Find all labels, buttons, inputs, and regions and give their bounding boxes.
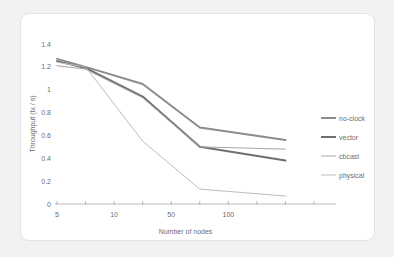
series-line-cbcast <box>57 66 285 149</box>
series-lines <box>57 59 285 196</box>
legend-label-cbcast: cbcast <box>339 153 359 160</box>
line-chart: 00.20.40.60.811.21.4 51050100 Number of … <box>21 14 376 242</box>
y-axis-tick-labels: 00.20.40.60.811.21.4 <box>41 41 51 208</box>
x-axis-tick-label: 50 <box>167 211 175 218</box>
figure-card: 00.20.40.60.811.21.4 51050100 Number of … <box>20 13 375 241</box>
x-axis-tick-labels: 51050100 <box>55 211 234 218</box>
y-axis-title: Throughput (tx / s) <box>29 95 37 152</box>
legend-label-vector: vector <box>339 134 359 141</box>
page-root: 00.20.40.60.811.21.4 51050100 Number of … <box>0 0 394 257</box>
legend-label-no-clock: no-clock <box>339 115 366 122</box>
x-axis-title: Number of nodes <box>159 228 213 235</box>
x-axis: 51050100 <box>55 201 336 218</box>
x-axis-tick-label: 5 <box>55 211 59 218</box>
chart-legend: no-clockvectorcbcastphysical <box>321 115 366 180</box>
y-axis-tick-label: 1 <box>47 86 51 93</box>
y-axis-tick-label: 0.8 <box>41 109 51 116</box>
series-line-physical <box>57 62 285 196</box>
series-line-vector <box>57 61 285 160</box>
y-axis-tick-label: 1.2 <box>41 63 51 70</box>
y-axis-tick-label: 0.2 <box>41 178 51 185</box>
x-axis-tick-label: 10 <box>110 211 118 218</box>
y-axis-tick-label: 1.4 <box>41 41 51 48</box>
y-axis-tick-label: 0 <box>47 201 51 208</box>
x-axis-tick-label: 100 <box>222 211 234 218</box>
y-axis-tick-label: 0.4 <box>41 155 51 162</box>
legend-label-physical: physical <box>339 172 365 180</box>
y-axis-tick-label: 0.6 <box>41 132 51 139</box>
